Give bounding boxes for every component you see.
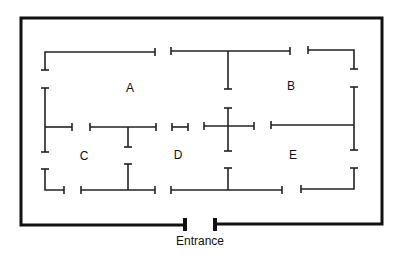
floor-plan bbox=[0, 0, 399, 259]
room-label-a: A bbox=[126, 81, 134, 95]
inner-walls bbox=[41, 46, 358, 194]
entrance-label: Entrance bbox=[176, 234, 224, 248]
entrance-posts bbox=[185, 218, 215, 231]
room-label-c: C bbox=[80, 149, 89, 163]
room-label-d: D bbox=[174, 148, 183, 162]
outer-wall bbox=[21, 18, 382, 225]
room-label-e: E bbox=[289, 148, 297, 162]
room-label-b: B bbox=[287, 79, 295, 93]
